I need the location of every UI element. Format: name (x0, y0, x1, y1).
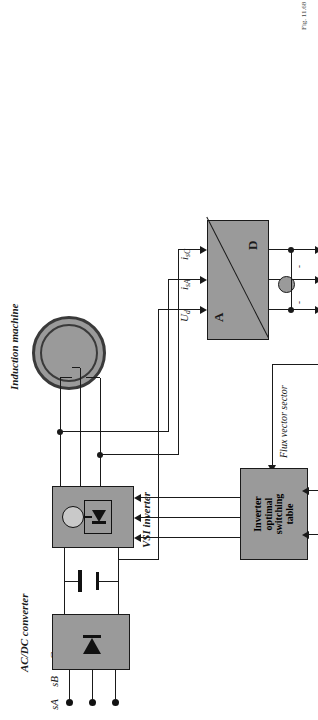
induction-machine-label: Induction machine (8, 304, 20, 391)
bus-sign-minus-1: - (294, 301, 304, 304)
flux-vector-sector-label: Flux vector sector (278, 385, 289, 458)
wire-phase-b (80, 368, 81, 486)
freewheel-diode-icon (92, 510, 106, 522)
wire-ud-sense (118, 559, 158, 560)
arrow-ud-to-ad (200, 306, 207, 314)
diode-icon (83, 638, 101, 654)
signal-ud-label: Ud (178, 310, 192, 322)
wire-gate-2 (140, 517, 240, 518)
induction-machine-symbol (32, 316, 106, 390)
ac-dc-converter-label: AC/DC converter (18, 593, 30, 672)
wire-flux-sector-h2 (272, 364, 273, 468)
wire-cap-top (64, 581, 78, 582)
signal-isa-label: isA (178, 279, 192, 290)
arrow-comp-torque-out (302, 487, 309, 495)
arrow-isa-to-ad (200, 276, 207, 284)
wire-gate-3 (140, 497, 240, 498)
ad-converter-a-label: A (212, 313, 226, 322)
arrow-gate-3 (134, 494, 141, 502)
bus-sum-node (278, 276, 295, 293)
arrow-ad-out-2 (315, 276, 318, 284)
terminal-sa-dot (66, 699, 73, 706)
wire-sc (115, 670, 116, 700)
terminal-sa-label: sA (48, 699, 60, 710)
wire-isa-sense-down (60, 431, 168, 432)
diagram-canvas: sA sB sC AC/DC converter VSI inverter (0, 0, 318, 720)
wire-phase-a-up (60, 377, 72, 378)
wire-comp-flux-out (308, 534, 318, 535)
ad-converter-d-label: D (246, 241, 260, 250)
switching-table-line1: Inverter (253, 496, 264, 532)
arrow-gate-2 (134, 514, 141, 522)
bus-sign-minus-2: - (294, 265, 304, 268)
terminal-sb-dot (89, 699, 96, 706)
freewheel-diode-bar-icon (92, 522, 106, 525)
transistor-icon (62, 506, 84, 528)
terminal-sb-label: sB (48, 676, 60, 687)
arrow-isc-to-ad (200, 246, 207, 254)
arrow-gate-1 (134, 534, 141, 542)
wire-ud-sense-h (158, 310, 159, 560)
wire-isc-sense-down (100, 454, 178, 455)
wire-sa (69, 670, 70, 700)
wire-comp-torque-out (308, 490, 318, 491)
switching-table-line3: switching (274, 494, 285, 535)
arrow-ad-out-1 (315, 306, 318, 314)
wire-gate-1 (140, 537, 240, 538)
vsi-inverter-label: VSI inverter (140, 492, 152, 548)
wire-cap-bottom (98, 581, 118, 582)
figure-caption: Fig. 11.68 (300, 2, 308, 30)
wire-sb (92, 670, 93, 700)
dc-capacitor-plate-top (78, 570, 82, 592)
terminal-sc-dot (112, 699, 119, 706)
switching-table-line4: table (285, 503, 296, 524)
wire-phase-c-up (86, 377, 100, 378)
wire-phase-b-up (72, 367, 80, 368)
arrow-comp-flux-out (302, 531, 309, 539)
wire-isa-sense-h (168, 280, 169, 432)
switching-table-block[interactable]: Inverter optimal switching table (240, 468, 308, 560)
signal-isc-label: isC (178, 249, 192, 260)
arrow-ad-out-3 (315, 246, 318, 254)
wire-phase-c (100, 378, 101, 486)
diagram-root: sA sB sC AC/DC converter VSI inverter (0, 0, 318, 720)
diode-bar-icon (83, 636, 101, 639)
wire-bus-link (291, 250, 292, 310)
wire-flux-sector-v (272, 364, 318, 365)
